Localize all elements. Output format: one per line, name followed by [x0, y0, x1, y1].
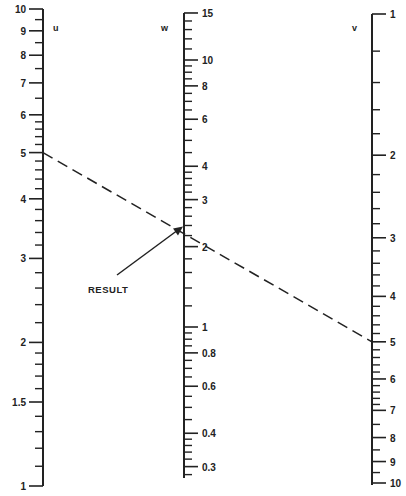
tick-label: 1.5	[12, 397, 26, 408]
tick-label: 0.8	[202, 348, 216, 359]
tick-label: 4	[390, 291, 396, 302]
tick-label: 10	[15, 4, 27, 15]
tick-label: 6	[202, 114, 208, 125]
tick-label: 9	[390, 457, 396, 468]
tick-label: 8	[390, 433, 396, 444]
axis-w-name: w	[160, 23, 169, 33]
tick-label: 1	[202, 322, 208, 333]
tick-label: 0.3	[202, 462, 216, 473]
tick-label: 1	[20, 481, 26, 492]
tick-label: 8	[202, 81, 208, 92]
axis-u-name: u	[53, 23, 59, 33]
axes-layer: u11.52345678910w0.30.40.60.81234681015v1…	[12, 4, 401, 492]
tick-label: 3	[202, 195, 208, 206]
tick-label: 9	[20, 26, 26, 37]
tick-label: 2	[390, 150, 396, 161]
tick-label: 0.4	[202, 428, 216, 439]
tick-label: 4	[202, 161, 208, 172]
result-arrow-line	[117, 228, 180, 275]
tick-label: 4	[20, 194, 26, 205]
axis-v: v12345678910	[352, 9, 402, 489]
tick-label: 10	[390, 478, 402, 489]
tick-label: 0.6	[202, 381, 216, 392]
result-label: RESULT	[88, 284, 128, 295]
axis-v-name: v	[352, 23, 357, 33]
tick-label: 3	[20, 253, 26, 264]
tick-label: 8	[20, 50, 26, 61]
tick-label: 6	[390, 374, 396, 385]
annotation-layer: RESULT	[88, 226, 183, 295]
tick-label: 2	[20, 337, 26, 348]
tick-label: 1	[390, 9, 396, 20]
tick-label: 15	[202, 8, 214, 19]
tick-label: 6	[20, 110, 26, 121]
nomogram-diagram: u11.52345678910w0.30.40.60.81234681015v1…	[0, 0, 406, 496]
tick-label: 7	[390, 405, 396, 416]
isopleth-layer	[43, 153, 372, 342]
tick-label: 7	[20, 78, 26, 89]
axis-w: w0.30.40.60.81234681015	[160, 8, 216, 478]
result-arrowhead-icon	[173, 226, 183, 235]
isopleth-dashed-line	[43, 153, 372, 342]
tick-label: 5	[390, 337, 396, 348]
tick-label: 3	[390, 233, 396, 244]
axis-u: u11.52345678910	[12, 4, 58, 492]
tick-label: 10	[202, 55, 214, 66]
tick-label: 5	[20, 148, 26, 159]
